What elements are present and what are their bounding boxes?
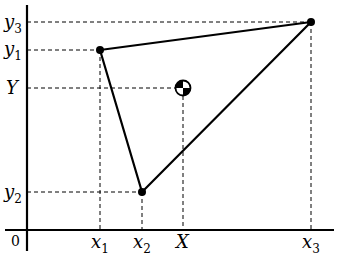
vertex-p2 [138,188,146,196]
label-Y: Y [6,77,20,98]
label-origin: 0 [11,233,20,249]
guide-lines [27,22,311,230]
vertex-p1 [96,46,104,54]
label-y3: y3 [3,11,22,36]
label-x2: x2 [133,231,151,256]
label-y1: y1 [3,38,22,63]
diagram-canvas: y3 y1 Y y2 0 x1 x2 X x3 [0,0,338,268]
label-y2: y2 [3,181,22,206]
label-x3: x3 [302,231,320,256]
label-X: X [174,231,190,252]
label-x1: x1 [91,231,109,256]
center-of-mass-icon [176,81,191,96]
vertex-p3 [307,18,315,26]
triangle [100,22,311,192]
